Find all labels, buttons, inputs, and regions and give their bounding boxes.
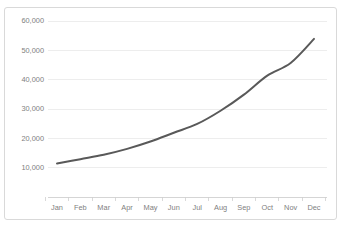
x-axis-tick-label: Sep xyxy=(237,203,250,212)
x-axis-tick-label: Jan xyxy=(51,203,63,212)
y-axis-tick-labels: 60,00050,00040,00030,00020,00010,000 xyxy=(21,16,44,172)
x-axis-tick-label: Jul xyxy=(192,203,202,212)
x-axis-tick-label: Jun xyxy=(168,203,180,212)
y-axis-tick-label: 30,000 xyxy=(21,104,44,113)
y-axis-tick-label: 60,000 xyxy=(21,16,44,25)
data-series-group xyxy=(57,39,314,164)
x-axis-tick-label: Dec xyxy=(307,203,320,212)
y-axis-tick-label: 10,000 xyxy=(21,163,44,172)
y-axis-tick-label: 20,000 xyxy=(21,134,44,143)
x-axis-tick-label: May xyxy=(143,203,157,212)
x-axis-tick-label: Aug xyxy=(214,203,227,212)
y-axis-tick-label: 40,000 xyxy=(21,75,44,84)
line-chart: 60,00050,00040,00030,00020,00010,000 Jan… xyxy=(0,0,344,230)
x-axis-tick-label: Apr xyxy=(121,203,133,212)
x-axis-tick-label: Oct xyxy=(262,203,274,212)
x-axis-tick-label: Feb xyxy=(74,203,87,212)
x-axis xyxy=(45,197,327,201)
x-axis-tick-label: Mar xyxy=(97,203,110,212)
gridlines xyxy=(48,21,327,168)
x-axis-tick-label: Nov xyxy=(284,203,297,212)
data-series-line xyxy=(57,39,314,164)
y-axis-tick-label: 50,000 xyxy=(21,46,44,55)
x-axis-tick-labels: JanFebMarAprMayJunJulAugSepOctNovDec xyxy=(51,203,321,212)
